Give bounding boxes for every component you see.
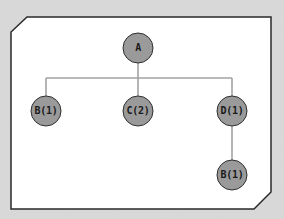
tree-diagram: A B(1) C(2) D(1) B(1)	[0, 0, 284, 219]
node-label-a: A	[121, 41, 155, 55]
node-label-d1: D(1)	[215, 104, 249, 118]
node-label-b1: B(1)	[29, 104, 63, 118]
node-label-c2: C(2)	[121, 104, 155, 118]
node-label-b1-child: B(1)	[215, 168, 249, 182]
